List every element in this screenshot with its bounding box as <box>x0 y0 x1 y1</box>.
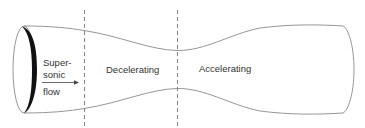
nozzle-bottom-wall <box>24 88 343 114</box>
nozzle-top-wall <box>24 25 343 51</box>
flow-arrow-icon <box>42 80 79 84</box>
nozzle-outlet <box>343 26 354 113</box>
inlet-label-line-3: flow <box>43 86 60 97</box>
inlet-rim <box>22 27 37 114</box>
inlet-label-line-1: Super- <box>43 57 72 68</box>
inlet-label-line-2: sonic <box>43 69 65 80</box>
region-label-decelerating: Decelerating <box>106 64 159 75</box>
region-label-accelerating: Accelerating <box>199 63 251 74</box>
nozzle-diagram: Super- sonic flow Decelerating Accelerat… <box>0 0 365 128</box>
